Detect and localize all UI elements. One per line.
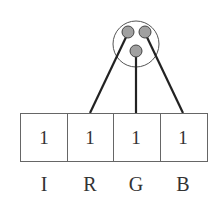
dot-red	[122, 26, 134, 38]
label-r: R	[83, 173, 97, 195]
cell-r-value: 1	[85, 127, 95, 148]
label-b: B	[176, 173, 189, 195]
cell-labels: I R G B	[41, 173, 190, 195]
label-i: I	[41, 173, 48, 195]
cell-b-value: 1	[178, 127, 188, 148]
connector-red	[90, 33, 128, 113]
dot-green	[130, 45, 142, 57]
connector-blue	[145, 33, 183, 113]
label-g: G	[129, 173, 143, 195]
cell-i-value: 1	[39, 127, 49, 148]
cell-g-value: 1	[131, 127, 141, 148]
dot-blue	[139, 26, 151, 38]
irgb-diagram: 1 1 1 1 I R G B	[0, 0, 218, 206]
bit-cells: 1 1 1 1	[21, 114, 208, 162]
